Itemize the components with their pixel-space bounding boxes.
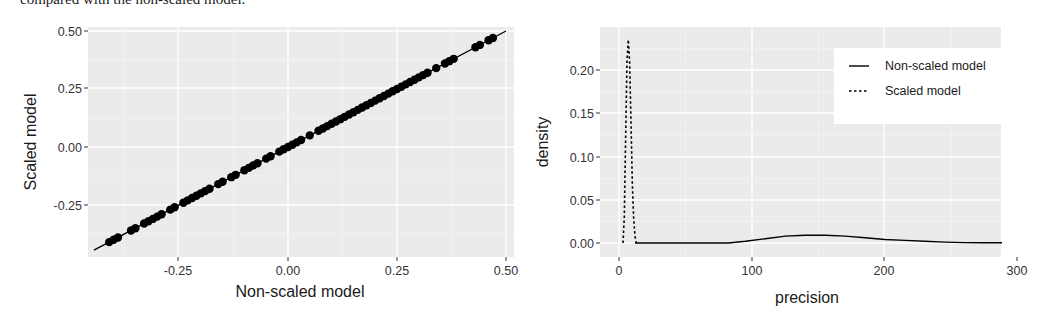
x-tick-label: 0.00 bbox=[276, 264, 300, 278]
x-tick-label: 0.25 bbox=[385, 264, 409, 278]
left-y-axis-title: Scaled model bbox=[22, 94, 39, 191]
legend: Non-scaled model Scaled model bbox=[834, 48, 1020, 124]
y-tick-label: 0.25 bbox=[58, 82, 82, 96]
right-x-axis-ticks: 0100200300 bbox=[616, 257, 1028, 278]
y-tick-label: 0.10 bbox=[570, 151, 594, 165]
right-y-axis-title: density bbox=[534, 117, 551, 168]
legend-label-scaled: Scaled model bbox=[885, 84, 961, 98]
y-tick-label: 0.05 bbox=[570, 194, 594, 208]
legend-label-non-scaled: Non-scaled model bbox=[885, 59, 986, 73]
y-tick-label: 0.15 bbox=[570, 107, 594, 121]
left-scatter-panel: 0.500.250.00-0.25 -0.250.000.250.50 Scal… bbox=[22, 25, 518, 301]
y-tick-label: 0.00 bbox=[570, 237, 594, 251]
left-y-axis-ticks: 0.500.250.00-0.25 bbox=[54, 25, 89, 213]
x-tick-label: 300 bbox=[1007, 264, 1028, 278]
y-tick-label: 0.00 bbox=[58, 141, 82, 155]
figure-canvas: 0.500.250.00-0.25 -0.250.000.250.50 Scal… bbox=[0, 0, 1046, 316]
x-tick-label: -0.25 bbox=[164, 264, 193, 278]
x-tick-label: 0 bbox=[616, 264, 623, 278]
right-x-axis-title: precision bbox=[775, 289, 839, 306]
y-tick-label: 0.20 bbox=[570, 64, 594, 78]
left-x-axis-ticks: -0.250.000.250.50 bbox=[164, 257, 518, 278]
x-tick-label: 0.50 bbox=[494, 264, 518, 278]
right-y-axis-ticks: 0.200.150.100.050.00 bbox=[570, 64, 600, 251]
x-tick-label: 100 bbox=[742, 264, 763, 278]
y-tick-label: -0.25 bbox=[54, 199, 83, 213]
x-tick-label: 200 bbox=[874, 264, 895, 278]
y-tick-label: 0.50 bbox=[58, 25, 82, 39]
left-x-axis-title: Non-scaled model bbox=[236, 283, 365, 300]
right-density-panel: 0.200.150.100.050.00 0100200300 density … bbox=[534, 27, 1027, 306]
